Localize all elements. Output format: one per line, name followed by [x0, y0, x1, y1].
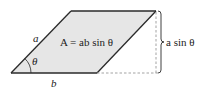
angle-label: θ — [32, 55, 38, 67]
height-label: a sin θ — [166, 36, 195, 48]
height-brace — [158, 11, 164, 73]
area-formula-label: A = ab sin θ — [60, 36, 113, 48]
side-b-label: b — [51, 77, 57, 89]
parallelogram-diagram: a b θ A = ab sin θ a sin θ — [0, 0, 200, 94]
side-a-label: a — [33, 32, 39, 44]
